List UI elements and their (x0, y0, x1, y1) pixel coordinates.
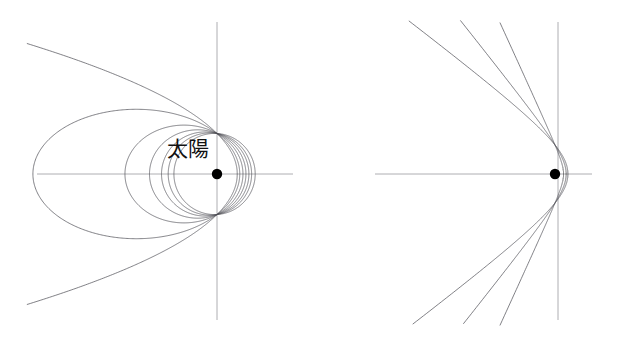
left-panel-canvas (0, 0, 310, 342)
orbit-curve (409, 21, 568, 324)
sun-marker (212, 169, 222, 179)
sun-label: 太陽 (167, 139, 209, 160)
right-axes-group (375, 22, 592, 320)
panel-hyperbolic-orbits: 太陽 (310, 0, 619, 342)
orbit-diagram-figure: 太陽 太陽 (0, 0, 619, 342)
right-orbit-curves-group (409, 20, 568, 325)
sun-marker (550, 169, 560, 179)
right-panel-canvas (310, 0, 619, 342)
left-axes-group (37, 22, 293, 320)
panel-elliptical-orbits: 太陽 (0, 0, 310, 342)
